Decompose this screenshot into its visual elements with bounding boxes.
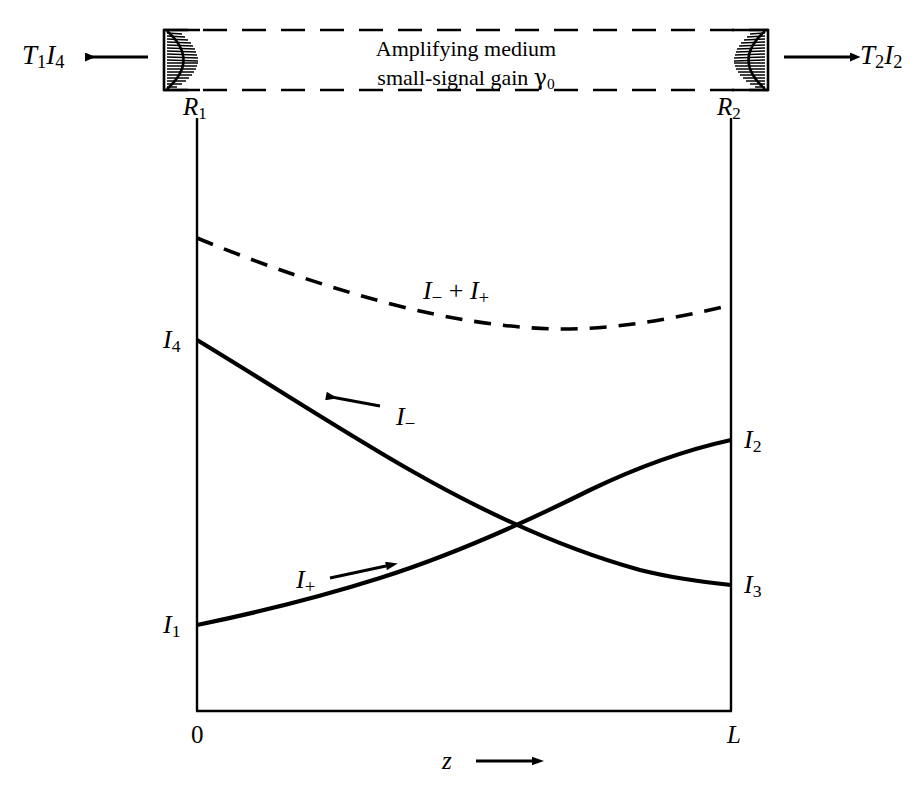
right-mirror-hatching: [734, 33, 765, 87]
mirror-right-label: R2: [717, 94, 741, 122]
sum-curve-label: I− + I+: [423, 278, 489, 307]
endpoint-label-i4: I4: [163, 327, 181, 356]
curve-label-i-minus: I−: [396, 404, 415, 433]
laser-cavity-intensity-figure: T1I4 T2I2 Amplifying medium small-signal…: [0, 0, 917, 806]
x-axis-symbol-label: z: [442, 748, 452, 773]
medium-line-1: Amplifying medium: [366, 34, 566, 63]
gamma-subscript: 0: [547, 75, 555, 92]
gamma-symbol: γ: [534, 65, 547, 90]
x-axis-origin-label: 0: [191, 722, 204, 747]
x-axis-end-label: L: [727, 722, 741, 747]
i-minus-direction-arrow: [326, 396, 380, 406]
endpoint-label-i2: I2: [744, 427, 762, 456]
endpoint-label-i3: I3: [744, 572, 762, 601]
mirror-left-label: R1: [183, 94, 207, 122]
curve-i-plus: [197, 440, 731, 625]
right-output-label: T2I2: [860, 42, 902, 71]
amplifying-medium-caption: Amplifying medium small-signal gain γ0: [366, 34, 566, 94]
curve-label-i-plus: I+: [296, 567, 315, 596]
endpoint-label-i1: I1: [163, 612, 181, 641]
left-mirror-hatching: [167, 33, 198, 87]
left-output-label: T1I4: [22, 42, 64, 71]
i-plus-direction-arrow: [330, 566, 386, 578]
figure-vector-layer: [0, 0, 917, 806]
medium-line-2: small-signal gain γ0: [366, 63, 566, 94]
